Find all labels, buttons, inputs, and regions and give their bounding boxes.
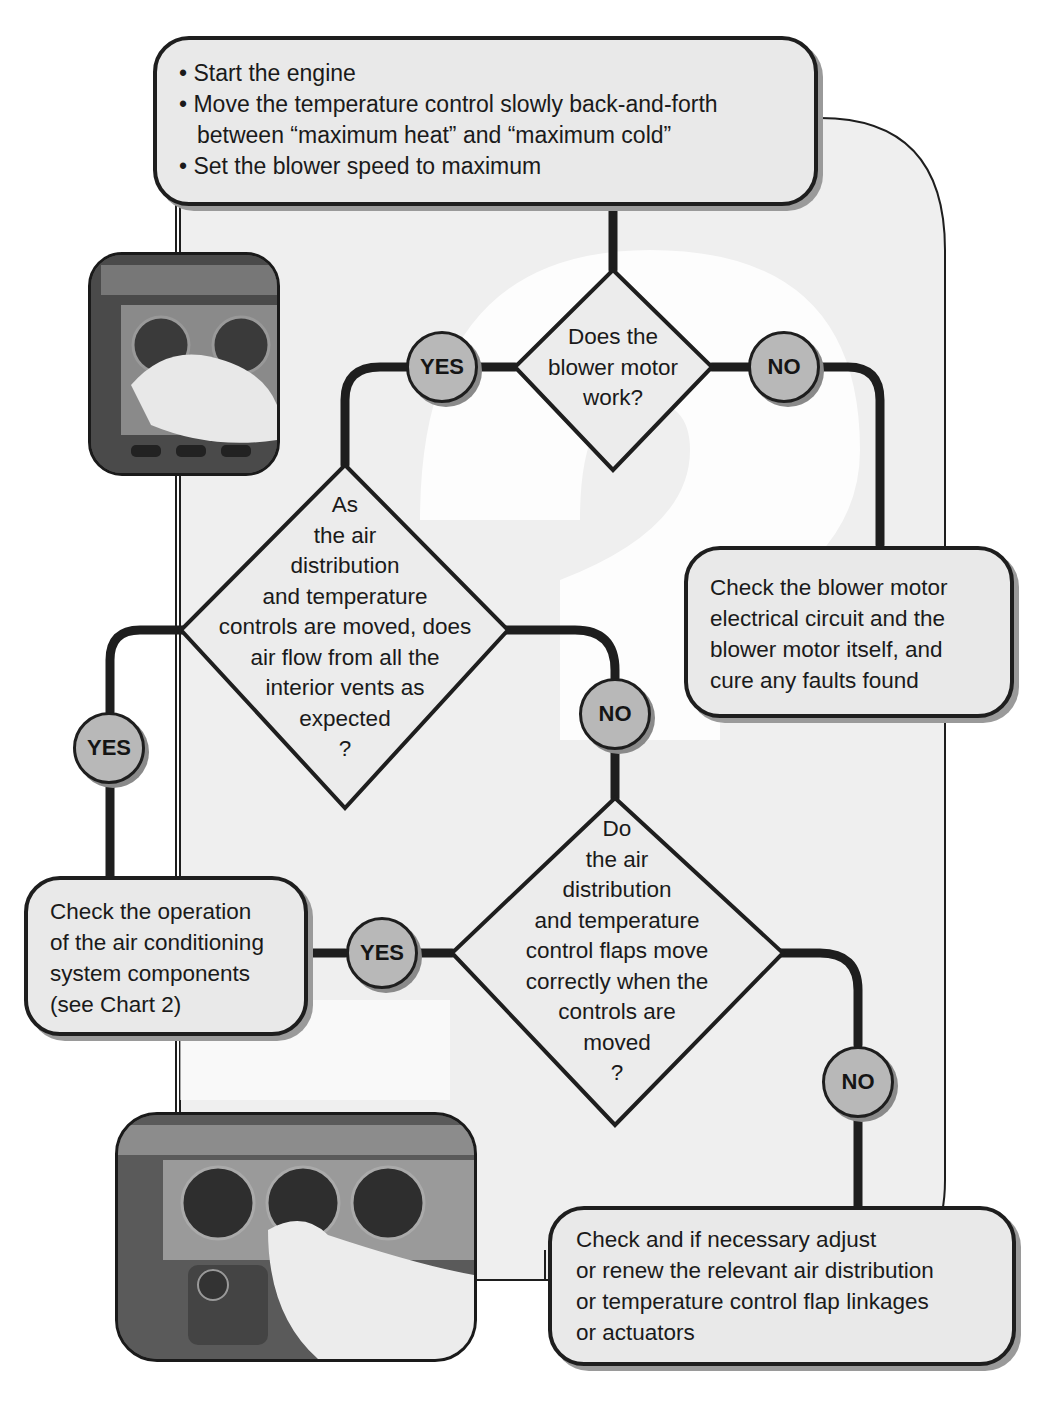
decision-3-line: control flaps move xyxy=(452,936,782,967)
decision-2-line: and temperature xyxy=(181,582,509,613)
dashboard-photo-top-illustration xyxy=(91,255,277,473)
action-ac-line: Check the operation xyxy=(50,896,290,927)
decision-1-text: Does the blower motor work? xyxy=(515,322,711,414)
action-blower-line: electrical circuit and the xyxy=(710,603,992,634)
action-flaps-line: or renew the relevant air distribution xyxy=(576,1255,998,1286)
action-blower-line: blower motor itself, and xyxy=(710,634,992,665)
decision-2-line: the air xyxy=(181,521,509,552)
decision-3-line: Do xyxy=(452,814,782,845)
start-step-3: • Set the blower speed to maximum xyxy=(179,151,794,182)
decision-2-line: air flow from all the xyxy=(181,643,509,674)
decision-3-yes-label: YES xyxy=(346,917,418,989)
decision-3-text: Do the air distribution and temperature … xyxy=(452,814,782,1089)
dashboard-photo-bottom-illustration xyxy=(118,1115,474,1359)
decision-1-yes-label: YES xyxy=(406,331,478,403)
decision-3-line: moved xyxy=(452,1028,782,1059)
decision-3-line: and temperature xyxy=(452,906,782,937)
action-ac-line: of the air conditioning xyxy=(50,927,290,958)
decision-2-line: distribution xyxy=(181,551,509,582)
decision-3-line: distribution xyxy=(452,875,782,906)
action-flaps-line: or temperature control flap linkages xyxy=(576,1286,998,1317)
action-check-blower-motor: Check the blower motor electrical circui… xyxy=(684,546,1014,718)
action-flaps-line: Check and if necessary adjust xyxy=(576,1224,998,1255)
action-blower-line: cure any faults found xyxy=(710,665,992,696)
decision-2-yes-label: YES xyxy=(73,712,145,784)
decision-2-line: expected xyxy=(181,704,509,735)
action-adjust-flap-linkages: Check and if necessary adjust or renew t… xyxy=(548,1206,1016,1366)
decision-3-line: the air xyxy=(452,845,782,876)
start-instructions-box: • Start the engine • Move the temperatur… xyxy=(153,36,818,206)
decision-3-line: ? xyxy=(452,1058,782,1089)
decision-3-no-label: NO xyxy=(822,1046,894,1118)
decision-1-line: blower motor xyxy=(515,353,711,384)
dashboard-photo-top xyxy=(88,252,280,476)
decision-1-line: work? xyxy=(515,383,711,414)
decision-2-line: ? xyxy=(181,734,509,765)
start-step-2-cont: between “maximum heat” and “maximum cold… xyxy=(179,120,794,151)
decision-2-line: As xyxy=(181,490,509,521)
action-ac-line: (see Chart 2) xyxy=(50,989,290,1020)
action-flaps-line: or actuators xyxy=(576,1317,998,1348)
action-ac-line: system components xyxy=(50,958,290,989)
decision-3-line: controls are xyxy=(452,997,782,1028)
action-blower-line: Check the blower motor xyxy=(710,572,992,603)
decision-2-line: controls are moved, does xyxy=(181,612,509,643)
dashboard-photo-bottom xyxy=(115,1112,477,1362)
decision-2-text: As the air distribution and temperature … xyxy=(181,490,509,765)
action-check-ac-system: Check the operation of the air condition… xyxy=(24,876,308,1036)
decision-2-no-label: NO xyxy=(579,678,651,750)
decision-3-line: correctly when the xyxy=(452,967,782,998)
start-step-2: • Move the temperature control slowly ba… xyxy=(179,89,794,120)
decision-2-line: interior vents as xyxy=(181,673,509,704)
start-step-1: • Start the engine xyxy=(179,58,794,89)
decision-1-no-label: NO xyxy=(748,331,820,403)
decision-1-line: Does the xyxy=(515,322,711,353)
